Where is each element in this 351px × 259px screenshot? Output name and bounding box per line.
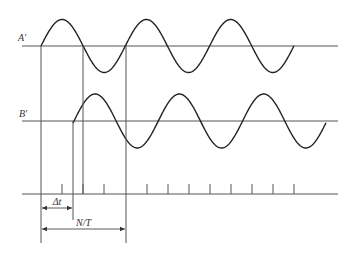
signal-a-label: A': [17, 32, 27, 43]
dimension-arrows: Δt N/T: [42, 196, 125, 229]
signal-b-label: B': [19, 108, 28, 119]
delta-t-label: Δt: [52, 196, 62, 207]
reference-lines: [41, 46, 126, 243]
phase-shift-diagram: A' B' Δt N/T: [0, 0, 351, 259]
n-over-t-label: N/T: [75, 217, 92, 228]
signal-a-group: A': [17, 20, 338, 73]
time-axis: [22, 184, 338, 194]
signal-b-group: B': [19, 94, 338, 148]
